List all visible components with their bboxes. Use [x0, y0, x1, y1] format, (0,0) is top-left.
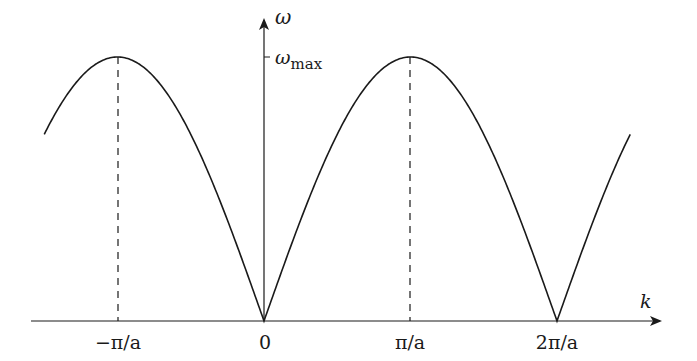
tick-label-2pi-a: 2π/a	[536, 331, 578, 353]
dispersion-diagram: k ω ωmax −π/a 0 π/a 2π/a	[0, 0, 697, 361]
tick-label-pi-a: π/a	[395, 331, 425, 353]
omega-max-label: ωmax	[275, 46, 323, 73]
tick-label-zero: 0	[259, 331, 271, 353]
k-axis-label: k	[640, 290, 652, 312]
tick-label-neg-pi-a: −π/a	[95, 331, 141, 353]
omega-axis-label: ω	[275, 5, 291, 29]
dispersion-curve	[44, 57, 630, 321]
